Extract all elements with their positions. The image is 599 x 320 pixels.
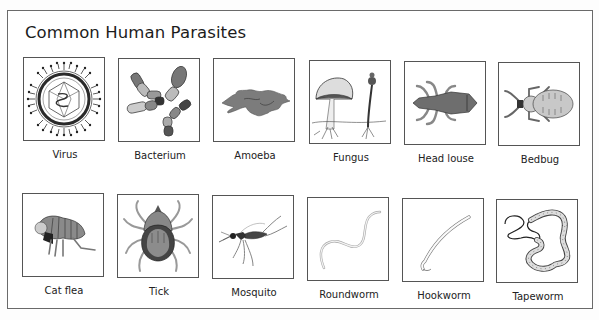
amoeba-illustration-box [213,58,295,142]
parasite-label: Tapeworm [496,291,580,302]
tapeworm-illustration-box [496,199,578,283]
mosquito-illustration-box [212,195,294,279]
mosquito-icon [213,196,293,278]
parasite-label: Head louse [404,153,488,164]
parasite-card-cat-flea: Cat flea [22,193,106,296]
cat-flea-illustration-box [22,193,104,277]
parasite-label: Hookworm [402,290,486,301]
hookworm-illustration-box [402,198,484,282]
parasite-label: Bacterium [118,150,202,161]
hookworm-icon [403,199,483,281]
head-louse-icon [405,62,485,144]
bedbug-illustration-box [498,62,580,146]
parasite-label: Mosquito [212,287,296,298]
fungus-icon [310,61,390,143]
parasite-label: Virus [23,149,107,160]
parasite-card-bacterium: Bacterium [118,58,202,161]
virus-illustration-box [23,57,105,141]
roundworm-illustration-box [307,197,389,281]
parasite-label: Amoeba [213,150,297,161]
bacterium-illustration-box [118,58,200,142]
fungus-illustration-box [309,60,391,144]
parasite-card-bedbug: Bedbug [498,62,582,165]
parasite-label: Tick [117,286,201,297]
parasite-card-virus: Virus [23,57,107,160]
parasite-card-head-louse: Head louse [404,61,488,164]
tick-icon [118,195,198,277]
tapeworm-icon [497,200,577,282]
parasite-label: Fungus [309,152,393,163]
virus-icon [24,58,104,140]
parasite-label: Bedbug [498,154,582,165]
parasite-card-tapeworm: Tapeworm [496,199,580,302]
parasite-label: Cat flea [22,285,106,296]
amoeba-icon [214,59,294,141]
parasite-label: Roundworm [307,289,391,300]
tick-illustration-box [117,194,199,278]
parasite-card-fungus: Fungus [309,60,393,163]
parasite-card-hookworm: Hookworm [402,198,486,301]
figure-title: Common Human Parasites [25,23,246,42]
bedbug-icon [499,63,579,145]
cat-flea-icon [23,194,103,276]
head-louse-illustration-box [404,61,486,145]
parasite-card-roundworm: Roundworm [307,197,391,300]
parasite-card-amoeba: Amoeba [213,58,297,161]
bacterium-icon [119,59,199,141]
roundworm-icon [308,198,388,280]
parasite-card-tick: Tick [117,194,201,297]
parasite-card-mosquito: Mosquito [212,195,296,298]
parasites-figure-frame: Common Human Parasites [7,10,593,309]
